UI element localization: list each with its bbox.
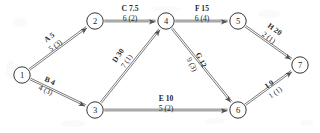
node-label-7: 7 — [298, 60, 302, 70]
edge-D — [100, 29, 160, 103]
edge-label-bottom-E: 5 (2) — [159, 104, 174, 113]
diagram-canvas: 1234567 A 55 (3)B 44 (3)C 7.56 (2)D 307 … — [0, 0, 320, 133]
node-label-6: 6 — [236, 105, 240, 115]
node-7[interactable]: 7 — [292, 57, 308, 73]
node-1[interactable]: 1 — [14, 67, 30, 83]
edge-label-B: B 44 (3) — [37, 74, 59, 98]
edge-label-F: F 156 (4) — [195, 4, 210, 23]
edge-label-top-F: F 15 — [195, 4, 209, 13]
edge-label-C: C 7.56 (2) — [122, 4, 139, 23]
node-4[interactable]: 4 — [158, 13, 174, 29]
edge-label-bottom-F: 6 (4) — [195, 14, 210, 23]
node-label-2: 2 — [93, 16, 97, 26]
edge-label-H: H 202 (1) — [260, 21, 284, 46]
node-5[interactable]: 5 — [230, 13, 246, 29]
node-label-1: 1 — [20, 70, 24, 80]
node-6[interactable]: 6 — [230, 102, 246, 118]
edge-label-top-E: E 10 — [159, 94, 174, 103]
edge-label-A: A 55 (3) — [41, 29, 64, 53]
node-label-3: 3 — [93, 105, 97, 115]
node-3[interactable]: 3 — [87, 102, 103, 118]
network-diagram-svg: 1234567 A 55 (3)B 44 (3)C 7.56 (2)D 307 … — [0, 0, 320, 133]
edge-label-E: E 105 (2) — [159, 94, 174, 113]
edge-label-top-C: C 7.5 — [122, 4, 139, 13]
node-2[interactable]: 2 — [87, 13, 103, 29]
node-label-5: 5 — [236, 16, 240, 26]
edge-label-bottom-C: 6 (2) — [123, 14, 138, 23]
edge-B — [30, 78, 85, 106]
